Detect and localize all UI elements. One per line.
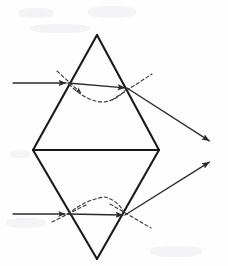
optics-diagram-canvas	[0, 0, 228, 266]
prism-upper-left-edge	[33, 35, 97, 150]
lower-dashed-guides	[52, 197, 151, 228]
prism-lower-left-edge	[33, 150, 97, 259]
prism-upper-right-edge	[97, 35, 159, 150]
prism-refraction-svg	[0, 0, 228, 266]
prism-lower-right-edge	[97, 150, 159, 259]
lower-internal-guide-dashed	[68, 197, 125, 214]
lower-internal-ray	[67, 214, 123, 215]
prism-outline-group	[33, 35, 159, 259]
lower-ray-group	[13, 162, 209, 215]
upper-internal-ray	[68, 83, 125, 88]
upper-entry-normal-dashed	[57, 71, 81, 93]
